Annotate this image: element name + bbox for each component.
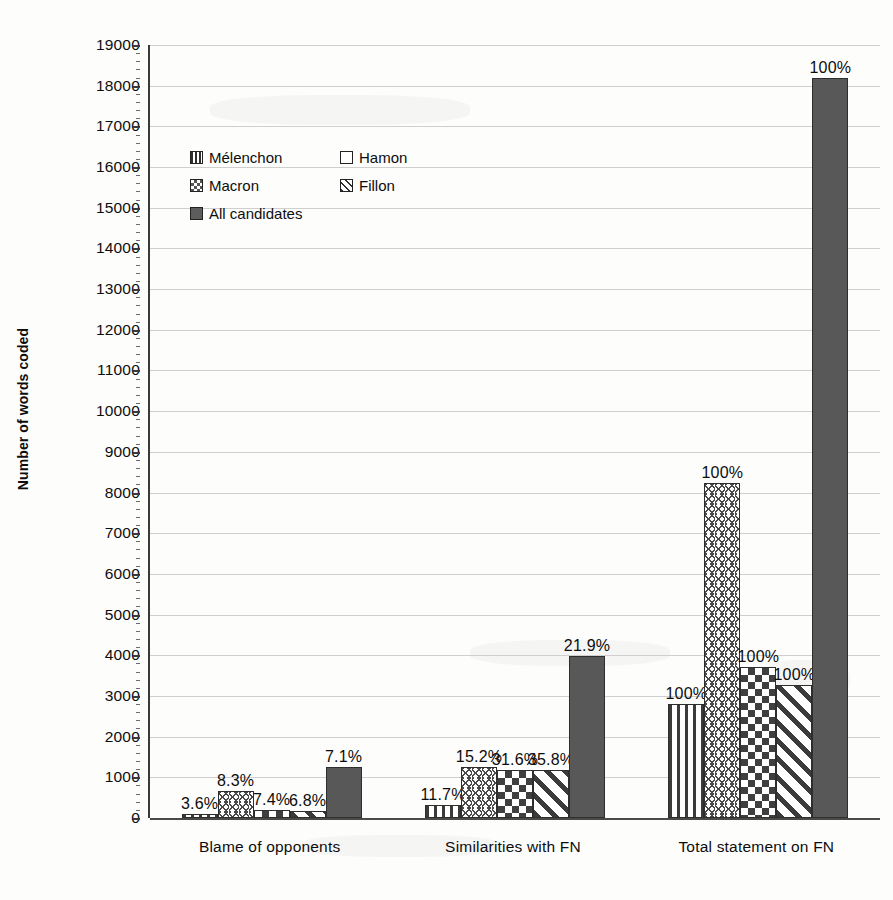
bar-m-lenchon-1[interactable]: 3.6% [182, 814, 218, 818]
y-axis-tick-label: 0 [48, 809, 140, 827]
y-axis-minor-tick [136, 672, 140, 673]
y-axis-tick-label: 2000 [48, 728, 140, 746]
bar-value-label: 11.7% [420, 786, 465, 804]
legend-swatch-icon [340, 179, 353, 192]
bar-all-candidates-1[interactable]: 7.1% [326, 767, 362, 818]
y-axis-tick-mark [133, 615, 140, 617]
x-axis-category-label: Blame of opponents [199, 838, 340, 856]
bar-all-candidates-3[interactable]: 100% [812, 78, 848, 818]
y-axis-minor-tick [136, 436, 140, 437]
y-axis-tick-labels: 1900018000170001600015000140001300012000… [40, 45, 140, 818]
y-axis-minor-tick [136, 305, 140, 306]
y-axis-tick-mark [133, 411, 140, 413]
y-axis-minor-tick [136, 753, 140, 754]
y-axis-minor-tick [136, 460, 140, 461]
y-axis-minor-tick [136, 525, 140, 526]
bar-macron-2[interactable]: 31.6% [497, 770, 533, 818]
bar-value-label: 35.8% [528, 751, 574, 769]
y-axis-tick-mark [133, 777, 140, 779]
y-axis-tick-mark [133, 696, 140, 698]
bar-fillon-2[interactable]: 35.8% [533, 770, 569, 818]
y-axis-minor-tick [136, 606, 140, 607]
y-axis-minor-tick [136, 143, 140, 144]
legend-swatch-icon [190, 151, 203, 164]
y-axis-minor-tick [136, 297, 140, 298]
legend-item-fillon[interactable]: Fillon [340, 177, 490, 194]
y-axis-minor-tick [136, 517, 140, 518]
y-axis-minor-tick [136, 183, 140, 184]
bar-value-label: 7.4% [253, 791, 290, 809]
y-axis-tick-mark [133, 86, 140, 88]
y-axis-tick-mark [133, 167, 140, 169]
bar-value-label: 100% [773, 666, 815, 684]
bar-macron-1[interactable]: 7.4% [254, 810, 290, 818]
bar-m-lenchon-3[interactable]: 100% [668, 704, 704, 818]
y-axis-tick-label: 3000 [48, 687, 140, 705]
y-axis-minor-tick [136, 110, 140, 111]
y-axis-minor-tick [136, 728, 140, 729]
y-axis-minor-tick [136, 558, 140, 559]
y-axis-tick-mark [133, 126, 140, 128]
y-axis-minor-tick [136, 281, 140, 282]
legend-item-all-candidates[interactable]: All candidates [190, 205, 340, 222]
y-axis-minor-tick [136, 745, 140, 746]
y-axis-title: Number of words coded [6, 0, 40, 818]
y-axis-minor-tick [136, 379, 140, 380]
y-axis-minor-tick [136, 200, 140, 201]
legend-item-label: All candidates [209, 205, 302, 222]
y-axis-minor-tick [136, 582, 140, 583]
y-axis-minor-tick [136, 639, 140, 640]
y-axis-minor-tick [136, 94, 140, 95]
y-axis-tick-label: 15000 [48, 199, 140, 217]
bar-all-candidates-2[interactable]: 21.9% [569, 656, 605, 818]
y-axis-tick-label: 17000 [48, 117, 140, 135]
y-axis-minor-tick [136, 69, 140, 70]
legend-item-macron[interactable]: Macron [190, 177, 340, 194]
y-axis-minor-tick [136, 118, 140, 119]
y-axis-tick-label: 10000 [48, 402, 140, 420]
legend-row: MacronFillon [190, 171, 490, 199]
bar-value-label: 7.1% [325, 748, 362, 766]
y-axis-minor-tick [136, 53, 140, 54]
bar-value-label: 21.9% [564, 637, 610, 655]
y-axis-tick-mark [133, 818, 140, 820]
bar-value-label: 100% [737, 648, 779, 666]
y-axis-minor-tick [136, 61, 140, 62]
bar-m-lenchon-2[interactable]: 11.7% [425, 805, 461, 818]
x-axis-category-label: Total statement on FN [678, 838, 834, 856]
bar-fillon-1[interactable]: 6.8% [290, 811, 326, 818]
bar-hamon-1[interactable]: 8.3% [218, 791, 254, 818]
y-axis-minor-tick [136, 135, 140, 136]
legend-item-hamon[interactable]: Hamon [340, 149, 490, 166]
y-axis-tick-label: 8000 [48, 484, 140, 502]
y-axis-minor-tick [136, 354, 140, 355]
y-axis-tick-mark [133, 289, 140, 291]
y-axis-tick-mark [133, 493, 140, 495]
legend-item-m-lenchon[interactable]: Mélenchon [190, 149, 340, 166]
y-axis-minor-tick [136, 159, 140, 160]
bar-group: 100%100%100%100%100% [637, 45, 880, 818]
y-axis-minor-tick [136, 468, 140, 469]
bar-hamon-2[interactable]: 15.2% [461, 767, 497, 818]
y-axis-tick-label: 19000 [48, 36, 140, 54]
y-axis-tick-mark [133, 370, 140, 372]
legend-item-label: Mélenchon [209, 149, 282, 166]
y-axis-tick-label: 16000 [48, 158, 140, 176]
bar-fillon-3[interactable]: 100% [776, 685, 812, 818]
bar-macron-3[interactable]: 100% [740, 667, 776, 818]
y-axis-minor-tick [136, 224, 140, 225]
y-axis-tick-mark [133, 737, 140, 739]
y-axis-minor-tick [136, 509, 140, 510]
y-axis-minor-tick [136, 427, 140, 428]
y-axis-minor-tick [136, 802, 140, 803]
y-axis-tick-mark [133, 533, 140, 535]
y-axis-tick-mark [133, 208, 140, 210]
legend-swatch-icon [190, 207, 203, 220]
bar-hamon-3[interactable]: 100% [704, 483, 740, 818]
y-axis-minor-tick [136, 663, 140, 664]
y-axis-minor-tick [136, 688, 140, 689]
y-axis-minor-tick [136, 151, 140, 152]
y-axis-minor-tick [136, 322, 140, 323]
y-axis-minor-tick [136, 647, 140, 648]
legend-item-label: Fillon [359, 177, 395, 194]
